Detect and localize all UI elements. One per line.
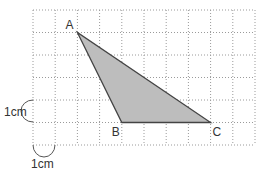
vertex-label-b: B	[112, 125, 120, 139]
horizontal-scale-brace	[33, 145, 55, 157]
vertex-label-a: A	[65, 18, 73, 32]
triangle-diagram: A B C 1cm 1cm	[0, 0, 271, 178]
vertical-scale-label: 1cm	[4, 105, 27, 119]
vertex-label-c: C	[213, 125, 222, 139]
horizontal-scale-label: 1cm	[31, 157, 54, 171]
